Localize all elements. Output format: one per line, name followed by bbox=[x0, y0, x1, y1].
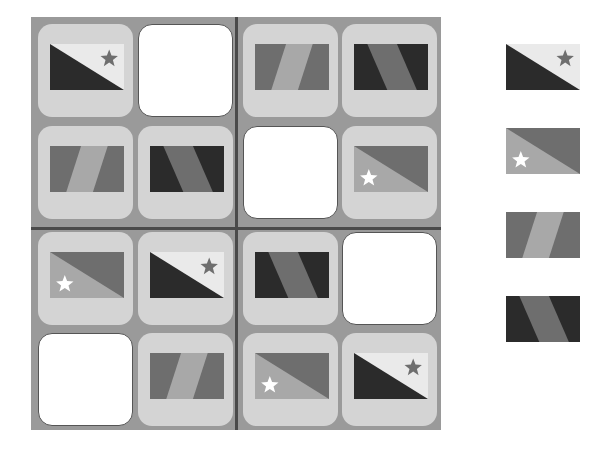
grid-cell[interactable] bbox=[38, 126, 133, 219]
grid-cell[interactable] bbox=[38, 232, 133, 325]
flag-c-icon bbox=[506, 212, 580, 258]
grid-cell[interactable] bbox=[342, 333, 437, 426]
grid-cell[interactable] bbox=[342, 126, 437, 219]
grid-cell[interactable] bbox=[38, 24, 133, 117]
grid-cell[interactable] bbox=[243, 232, 338, 325]
option-flag-c[interactable] bbox=[506, 212, 580, 258]
flag-d-icon bbox=[506, 296, 580, 342]
grid-cell[interactable] bbox=[243, 333, 338, 426]
option-flag-d[interactable] bbox=[506, 296, 580, 342]
grid-cell[interactable] bbox=[243, 24, 338, 117]
grid-cell[interactable] bbox=[342, 24, 437, 117]
empty-cell[interactable] bbox=[243, 126, 338, 219]
empty-cell[interactable] bbox=[138, 24, 233, 117]
grid-cell[interactable] bbox=[138, 333, 233, 426]
flag-b-icon bbox=[506, 128, 580, 174]
option-flag-a[interactable] bbox=[506, 44, 580, 90]
option-flag-b[interactable] bbox=[506, 128, 580, 174]
quadrant-divider-horizontal bbox=[31, 227, 441, 230]
empty-cell[interactable] bbox=[342, 232, 437, 325]
quadrant-divider-vertical bbox=[235, 17, 238, 430]
flag-a-icon bbox=[506, 44, 580, 90]
grid-cell[interactable] bbox=[138, 232, 233, 325]
grid-cell[interactable] bbox=[138, 126, 233, 219]
empty-cell[interactable] bbox=[38, 333, 133, 426]
